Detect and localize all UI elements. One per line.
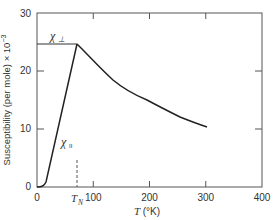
- y-ticks-left: [37, 71, 44, 129]
- y-axis-label: Susceptibility (per mole) × 10−3: [0, 35, 12, 166]
- chi-parallel-subscript: II: [69, 143, 73, 149]
- chi-parallel-curve: [37, 44, 77, 187]
- y-ticks-right: [255, 71, 262, 129]
- plot-frame: [37, 13, 262, 187]
- svg-text:Susceptibility (per mole) × 10: Susceptibility (per mole) × 10−3: [0, 35, 12, 166]
- svg-text:T (°K): T (°K): [134, 205, 160, 217]
- chi-parallel-symbol: χ: [60, 135, 67, 149]
- chi-perp-subscript: ⊥: [58, 35, 65, 44]
- chi-parallel-annotation: χ II: [60, 135, 73, 149]
- x-tick-label-300: 300: [197, 192, 214, 203]
- tn-label: T N: [71, 192, 84, 207]
- x-ticks-bottom: [93, 181, 206, 187]
- chart: 0 100 200 300 400 T N 0 10 20 30 T (°K) …: [0, 0, 276, 220]
- tn-label-sub: N: [77, 198, 84, 207]
- y-tick-label-30: 30: [20, 8, 32, 19]
- x-tick-label-400: 400: [254, 192, 271, 203]
- chi-perp-symbol: χ: [49, 29, 56, 43]
- x-axis-label-unit: (°K): [140, 206, 160, 217]
- x-axis-label: T (°K): [134, 205, 160, 217]
- y-axis-label-exp: −3: [0, 35, 7, 43]
- chi-perp-annotation: χ ⊥: [49, 29, 65, 44]
- x-tick-label-100: 100: [85, 192, 102, 203]
- y-axis-label-text: Susceptibility (per mole) × 10: [1, 43, 12, 166]
- y-tick-label-10: 10: [20, 123, 32, 134]
- x-ticks-top: [93, 13, 206, 19]
- x-tick-label-0: 0: [34, 192, 40, 203]
- y-tick-label-20: 20: [20, 65, 32, 76]
- y-tick-label-0: 0: [25, 181, 31, 192]
- tn-label-T: T: [71, 192, 78, 204]
- paramagnetic-curve: [77, 44, 207, 127]
- x-tick-label-200: 200: [141, 192, 158, 203]
